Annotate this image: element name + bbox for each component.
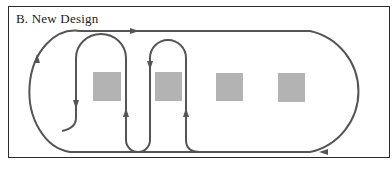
arrow-icon [123, 108, 129, 117]
station-square [155, 72, 182, 101]
station-square [93, 72, 121, 101]
arrow-icon [147, 61, 153, 70]
station-square [278, 73, 305, 102]
arrow-icon [183, 108, 189, 117]
flow-diagram [0, 0, 392, 173]
arrow-icon [130, 28, 139, 34]
arrow-icon [319, 149, 328, 155]
arrow-icon [73, 100, 79, 109]
station-square [216, 73, 243, 101]
